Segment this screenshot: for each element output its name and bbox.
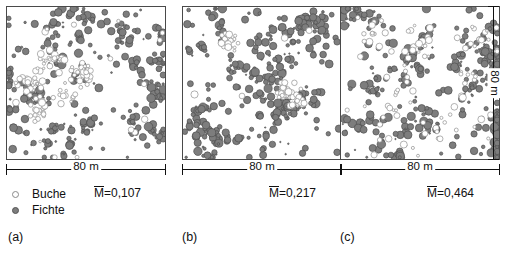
scale-bar-label: 80 m <box>71 160 101 173</box>
legend-label-fichte: Fichte <box>32 202 65 218</box>
scale-bar-tick-bottom <box>488 159 499 160</box>
scale-bar-horizontal-c: 80 m <box>340 163 500 177</box>
m-symbol: M <box>427 186 437 200</box>
subcaption-c: (c) <box>340 230 355 245</box>
scale-bar-tick-left <box>182 164 183 175</box>
mingling-index-a: M=0,107 <box>94 186 141 200</box>
scale-bar-tick-right <box>165 164 166 175</box>
scatter-canvas-c <box>341 7 499 159</box>
scale-bar-label: 80 m <box>247 160 277 173</box>
scatter-canvas-b <box>183 7 341 159</box>
scale-bar-tick-top <box>488 6 499 7</box>
scale-bar-tick-left <box>6 164 7 175</box>
subcaption-b: (b) <box>182 230 197 245</box>
m-symbol: M <box>94 186 104 200</box>
scale-bar-tick-left <box>340 164 341 175</box>
open-circle-icon <box>8 191 22 198</box>
plot-panel-c <box>340 6 500 160</box>
m-value: =0,217 <box>279 186 316 200</box>
scale-bar-vertical: 80 m <box>486 6 502 160</box>
filled-circle-icon <box>8 207 22 214</box>
scale-bar-label: 80 m <box>405 160 435 173</box>
m-symbol: M <box>269 186 279 200</box>
m-value: =0,107 <box>104 186 141 200</box>
plot-panel-b <box>182 6 342 160</box>
scale-bar-horizontal-b: 80 m <box>182 163 342 177</box>
subcaption-a: (a) <box>8 230 23 245</box>
figure-stem-maps: 80 m 80 m 80 m 80 m Buche Fichte M=0,107… <box>0 0 510 257</box>
scale-bar-horizontal-a: 80 m <box>6 163 166 177</box>
m-value: =0,464 <box>437 186 474 200</box>
legend-label-buche: Buche <box>32 186 66 202</box>
scatter-canvas-a <box>7 7 165 159</box>
scale-bar-tick-right <box>499 164 500 175</box>
mingling-index-b: M=0,217 <box>269 186 316 200</box>
mingling-index-c: M=0,464 <box>427 186 474 200</box>
legend-item-fichte: Fichte <box>8 202 128 218</box>
scale-bar-label-vertical: 80 m <box>488 68 501 98</box>
plot-panel-a <box>6 6 166 160</box>
